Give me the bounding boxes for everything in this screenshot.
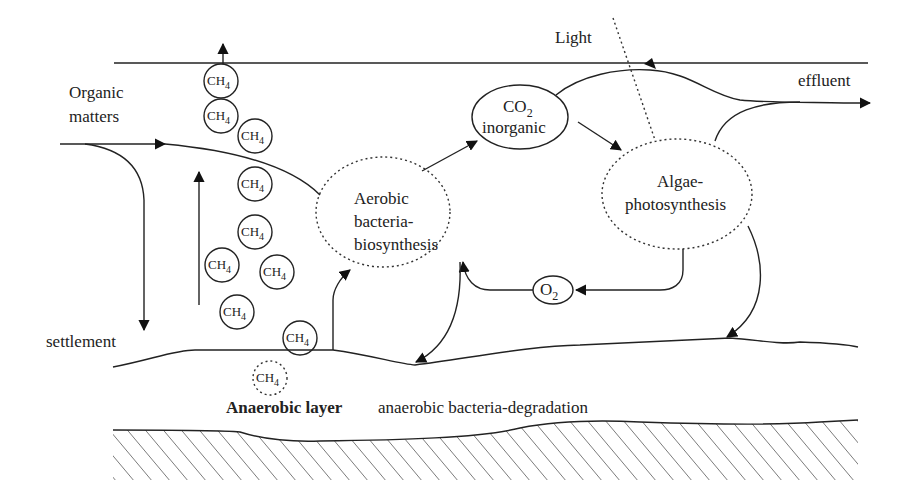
inorganic-label: inorganic	[482, 118, 546, 137]
organic-label: Organic	[69, 83, 124, 102]
methane-label: CH4	[263, 264, 286, 282]
methane-label: CH4	[241, 176, 264, 194]
light-label: Light	[555, 28, 592, 47]
settlement-label: settlement	[46, 332, 116, 351]
biosynthesis-label: biosynthesis	[354, 235, 438, 254]
effluent-label: effluent	[798, 71, 851, 90]
wastewater-pond-diagram: CH4CH4CH4CH4CH4CH4CH4CH4CH4CH4 Organic m…	[0, 0, 912, 497]
methane-bubbles: CH4CH4CH4CH4CH4CH4CH4CH4CH4CH4	[204, 64, 317, 395]
ground-hatching	[113, 420, 858, 480]
aerobic-to-sediment-arrow	[416, 262, 460, 362]
sediment-to-aerobic-arrow	[333, 270, 350, 350]
algae-label: Algae-	[657, 172, 704, 191]
o2-label: O2	[540, 280, 558, 303]
aerobic-label: Aerobic	[354, 189, 409, 208]
o2-to-aerobic-arrow	[463, 262, 533, 290]
algae-to-effluent-line	[715, 102, 800, 141]
methane-label: CH4	[207, 108, 230, 126]
algae-to-sediment-arrow	[727, 226, 760, 337]
anaerobic-degradation-label: anaerobic bacteria-degradation	[378, 398, 589, 417]
methane-label: CH4	[256, 370, 279, 388]
anaerobic-layer-label: Anaerobic layer	[226, 398, 343, 417]
algae-photosynthesis-node	[602, 139, 752, 249]
matters-label: matters	[69, 107, 119, 126]
algae-to-o2-arrow	[576, 249, 683, 290]
sediment-boundary-line	[113, 338, 858, 367]
co2-node	[472, 85, 568, 149]
photosynthesis-label: photosynthesis	[625, 195, 726, 214]
methane-label: CH4	[207, 73, 230, 91]
co2-to-algae-arrow	[578, 122, 621, 150]
light-ray	[613, 18, 655, 140]
settlement-arrow	[85, 144, 144, 330]
bacteria-label: bacteria-	[354, 212, 414, 231]
methane-label: CH4	[286, 330, 309, 348]
methane-label: CH4	[241, 224, 264, 242]
co2-label: CO2	[503, 97, 533, 120]
methane-label: CH4	[241, 128, 264, 146]
aerobic-to-co2-arrow	[422, 141, 477, 171]
methane-label: CH4	[208, 257, 231, 275]
methane-label: CH4	[223, 304, 246, 322]
